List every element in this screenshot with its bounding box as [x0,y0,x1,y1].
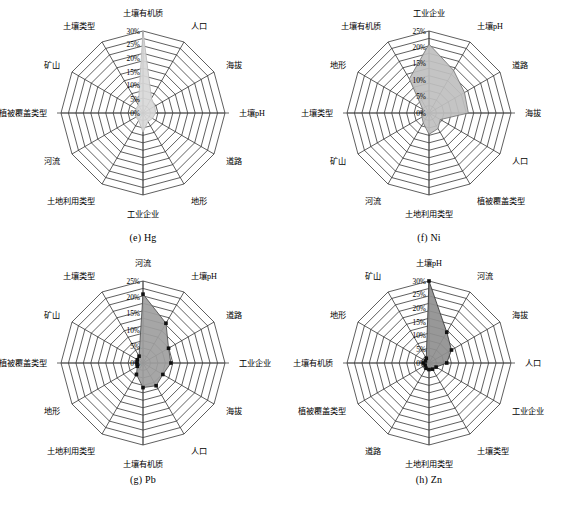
axis-category-label: 矿山 [330,156,346,166]
data-point-marker [445,330,449,334]
radial-tick-label: 0% [130,359,140,368]
axis-category-label: 人口 [191,447,207,456]
axis-category-label: 河流 [135,258,151,268]
axis-category-label: 工业企业 [127,209,159,219]
data-point-marker [445,361,449,365]
data-point-marker [164,321,168,325]
radar-chart-pb-svg: 0%5%10%15%20%25%河流土壤pH道路工业企业海拔人口土壤有机质土地利… [0,255,286,510]
radial-tick-label: 0% [416,109,426,118]
axis-category-label: 植被覆盖类型 [0,358,47,368]
axis-category-label: 道路 [365,446,381,456]
radial-tick-label: 10% [126,326,140,335]
data-point-marker [431,367,435,371]
axis-category-label: 矿山 [365,271,381,281]
axis-category-label: 土壤有机质 [123,8,163,18]
axis-category-label: 土壤类型 [477,446,509,456]
data-point-marker [450,348,454,352]
radial-tick-label: 15% [412,318,426,327]
radial-tick-label: 20% [412,43,426,52]
panel-caption-ni: (f) Ni [286,232,572,243]
axis-category-label: 河流 [477,271,493,281]
radar-panel-hg: 0%5%10%15%20%25%30%土壤有机质人口海拔土壤pH道路地形工业企业… [0,0,286,255]
panel-caption-zn: (h) Zn [286,474,572,485]
axis-category-label: 工业企业 [413,8,445,18]
radar-chart-hg-svg: 0%5%10%15%20%25%30%土壤有机质人口海拔土壤pH道路地形工业企业… [0,0,286,255]
axis-category-label: 人口 [525,359,541,368]
radial-tick-label: 25% [126,277,140,286]
axis-category-label: 土壤有机质 [341,21,381,31]
radial-tick-label: 0% [416,359,426,368]
axis-category-label: 土壤类型 [63,21,95,31]
axis-category-label: 海拔 [226,60,242,70]
axis-category-label: 地形 [191,196,207,206]
axis-category-label: 地形 [330,310,346,320]
radial-tick-label: 5% [416,92,426,101]
data-point-marker [135,373,139,377]
data-polygon-ni [409,44,468,134]
data-point-marker [169,361,173,365]
radar-panel-pb: 0%5%10%15%20%25%河流土壤pH道路工业企业海拔人口土壤有机质土地利… [0,255,286,510]
radar-panel-zn: 0%5%10%15%20%25%30%土壤pH河流海拔人口工业企业土壤类型土地利… [286,255,572,510]
axis-category-label: 道路 [226,156,242,166]
axis-category-label: 土地利用类型 [405,209,453,219]
axis-category-label: 土壤类型 [63,271,95,281]
radial-tick-label: 0% [130,109,140,118]
radial-tick-label: 5% [130,342,140,351]
data-point-marker [161,373,165,377]
axis-category-label: 海拔 [525,108,541,118]
radial-tick-label: 25% [412,27,426,36]
axis-category-label: 土地利用类型 [47,196,95,206]
radial-tick-label: 5% [416,345,426,354]
axis-category-label: 土地利用类型 [47,446,95,456]
axis-category-label: 土壤pH [416,258,442,268]
axis-category-label: 道路 [226,310,242,320]
axis-category-label: 海拔 [512,310,528,320]
radial-tick-label: 5% [130,95,140,104]
data-point-marker [141,386,145,390]
panel-caption-hg: (e) Hg [0,232,286,243]
axis-category-label: 河流 [44,156,60,166]
radial-tick-label: 10% [412,76,426,85]
axis-category-label: 土壤类型 [301,108,333,118]
radial-tick-label: 30% [126,27,140,36]
axis-category-label: 植被覆盖类型 [298,406,346,416]
axis-category-label: 土壤pH [239,108,265,118]
radial-tick-label: 15% [126,68,140,77]
data-polygon-zn [424,281,452,370]
axis-category-label: 矿山 [44,60,60,70]
axis-category-label: 工业企业 [239,358,271,368]
radar-panel-ni: 0%5%10%15%20%25%工业企业土壤pH道路海拔人口植被覆盖类型土地利用… [286,0,572,255]
axis-category-label: 矿山 [44,310,60,320]
data-point-marker [434,365,438,369]
radial-tick-label: 15% [412,59,426,68]
radial-tick-label: 10% [412,331,426,340]
data-point-marker [167,346,171,350]
axis-category-label: 土壤有机质 [293,358,333,368]
data-polygon-pb [136,294,170,387]
radial-tick-label: 20% [126,54,140,63]
axis-category-label: 地形 [330,60,346,70]
data-point-marker [154,384,158,388]
axis-category-label: 河流 [365,196,381,206]
axis-category-label: 土壤pH [191,271,217,281]
radial-tick-label: 15% [126,309,140,318]
axis-category-label: 人口 [191,22,207,31]
axis-category-label: 道路 [512,60,528,70]
axis-category-label: 土地利用类型 [405,459,453,469]
panel-caption-pb: (g) Pb [0,474,286,485]
radial-tick-label: 25% [126,40,140,49]
axis-category-label: 植被覆盖类型 [0,108,47,118]
axis-category-label: 工业企业 [512,406,544,416]
radial-tick-label: 30% [412,277,426,286]
axis-category-label: 植被覆盖类型 [477,196,525,206]
radial-tick-label: 25% [412,290,426,299]
radar-chart-zn-svg: 0%5%10%15%20%25%30%土壤pH河流海拔人口工业企业土壤类型土地利… [286,255,572,510]
radial-tick-label: 10% [126,81,140,90]
axis-category-label: 人口 [512,157,528,166]
axis-category-label: 地形 [44,406,60,416]
data-point-marker [141,292,145,296]
axis-category-label: 土壤有机质 [123,459,163,469]
radar-figure: 0%5%10%15%20%25%30%土壤有机质人口海拔土壤pH道路地形工业企业… [0,0,572,510]
axis-category-label: 海拔 [226,406,242,416]
radial-tick-label: 20% [126,293,140,302]
